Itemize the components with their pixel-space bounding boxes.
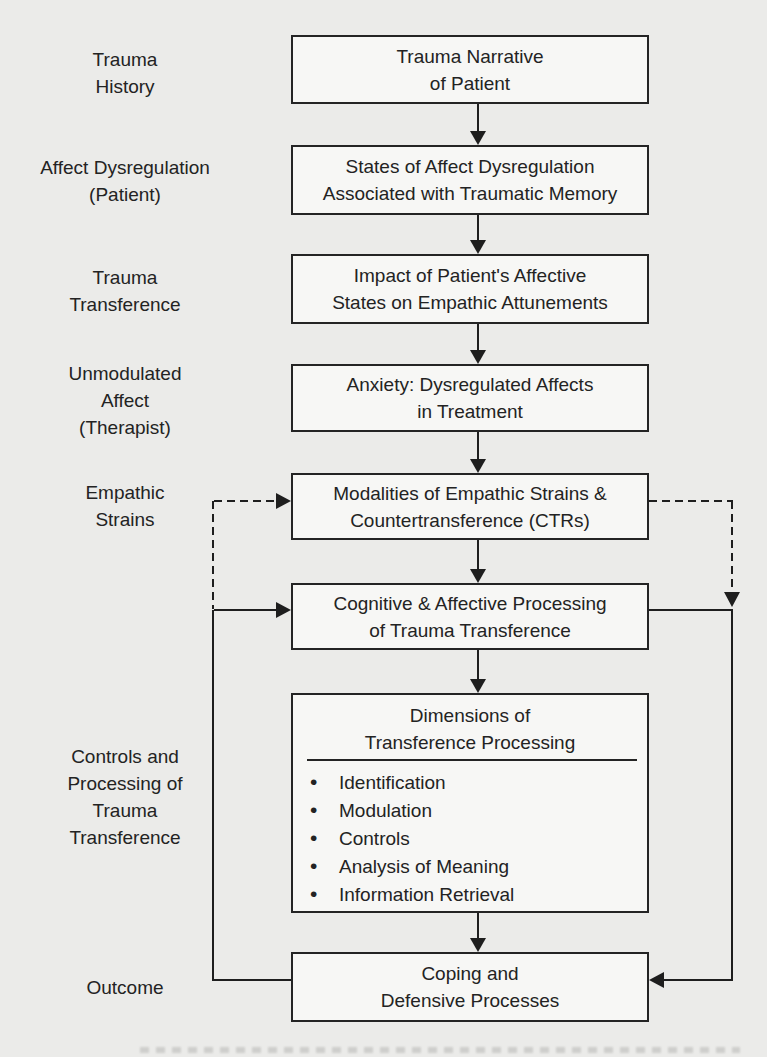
arrowhead-down-icon xyxy=(470,350,486,364)
dimensions-title: Dimensions of Transference Processing xyxy=(293,695,647,756)
arrowhead-down-icon xyxy=(470,569,486,583)
arrowhead-right-icon xyxy=(276,602,291,618)
dashed-line-from-modalities xyxy=(649,500,733,502)
dashed-rail-left xyxy=(212,501,214,609)
solid-line-into-cognitive xyxy=(214,609,276,611)
bullet-icon: • xyxy=(310,852,339,879)
box-impact-affective-states: Impact of Patient's Affective States on … xyxy=(291,254,649,324)
arrowhead-left-icon xyxy=(649,972,664,988)
box-coping-defensive-processes-text: Coping and Defensive Processes xyxy=(381,960,559,1014)
arrow-stem xyxy=(477,104,479,133)
list-item-text: Modulation xyxy=(339,797,432,824)
list-item-text: Information Retrieval xyxy=(339,881,514,908)
arrowhead-down-icon xyxy=(470,679,486,693)
side-label-affect-dysregulation: Affect Dysregulation (Patient) xyxy=(0,154,250,208)
list-item-text: Analysis of Meaning xyxy=(339,853,509,880)
dashed-rail-right xyxy=(731,501,733,592)
down-arrow-2 xyxy=(470,215,486,254)
bullet-icon: • xyxy=(310,880,339,907)
bullet-icon: • xyxy=(310,796,339,823)
down-arrow-3 xyxy=(470,324,486,364)
arrowhead-right-icon xyxy=(276,493,291,509)
arrow-stem xyxy=(477,215,479,242)
arrow-stem xyxy=(477,324,479,352)
box-cognitive-affective-processing-text: Cognitive & Affective Processing of Trau… xyxy=(333,590,606,644)
down-arrow-6 xyxy=(470,650,486,693)
arrow-stem xyxy=(477,913,479,940)
side-label-trauma-transference: Trauma Transference xyxy=(0,264,250,318)
list-item: •Controls xyxy=(310,824,647,852)
down-arrow-4 xyxy=(470,432,486,473)
box-coping-defensive-processes: Coping and Defensive Processes xyxy=(291,952,649,1022)
list-item: •Modulation xyxy=(310,796,647,824)
dashed-line-into-modalities xyxy=(214,500,276,502)
arrowhead-down-icon xyxy=(724,592,740,607)
list-item: •Information Retrieval xyxy=(310,880,647,908)
box-trauma-narrative-text: Trauma Narrative of Patient xyxy=(396,43,543,97)
side-label-unmodulated-affect: Unmodulated Affect (Therapist) xyxy=(0,360,250,441)
arrowhead-down-icon xyxy=(470,459,486,473)
arrowhead-down-icon xyxy=(470,131,486,145)
box-anxiety-dysregulated-affects-text: Anxiety: Dysregulated Affects in Treatme… xyxy=(347,371,594,425)
box-impact-affective-states-text: Impact of Patient's Affective States on … xyxy=(332,262,608,316)
arrowhead-down-icon xyxy=(470,938,486,952)
line-into-coping-right xyxy=(664,979,733,981)
list-item: •Identification xyxy=(310,768,647,796)
down-arrow-7 xyxy=(470,913,486,952)
box-cognitive-affective-processing: Cognitive & Affective Processing of Trau… xyxy=(291,583,649,650)
title-underline xyxy=(307,759,637,761)
trauma-transference-flow-diagram: Trauma History Affect Dysregulation (Pat… xyxy=(0,0,767,1057)
box-trauma-narrative: Trauma Narrative of Patient xyxy=(291,35,649,104)
list-item-text: Identification xyxy=(339,769,446,796)
list-item: •Analysis of Meaning xyxy=(310,852,647,880)
arrow-stem xyxy=(477,540,479,571)
solid-line-from-cognitive xyxy=(649,609,733,611)
arrowhead-down-icon xyxy=(470,240,486,254)
arrow-stem xyxy=(477,432,479,461)
down-arrow-5 xyxy=(470,540,486,583)
list-item-text: Controls xyxy=(339,825,410,852)
box-modalities-empathic-strains-text: Modalities of Empathic Strains & Counter… xyxy=(333,480,607,534)
down-arrow-1 xyxy=(470,104,486,145)
arrow-stem xyxy=(477,650,479,681)
solid-rail-left xyxy=(212,610,214,980)
bullet-icon: • xyxy=(310,824,339,851)
box-modalities-empathic-strains: Modalities of Empathic Strains & Counter… xyxy=(291,473,649,540)
box-anxiety-dysregulated-affects: Anxiety: Dysregulated Affects in Treatme… xyxy=(291,364,649,432)
dimensions-list: •Identification •Modulation •Controls •A… xyxy=(293,768,647,908)
bullet-icon: • xyxy=(310,768,339,795)
cropped-caption-remnant xyxy=(140,1047,740,1053)
box-dimensions-transference-processing: Dimensions of Transference Processing •I… xyxy=(291,693,649,913)
solid-rail-right xyxy=(731,610,733,980)
side-label-trauma-history: Trauma History xyxy=(0,46,250,100)
box-affect-dysregulation-states-text: States of Affect Dysregulation Associate… xyxy=(323,153,618,207)
line-from-coping-left xyxy=(212,979,291,981)
box-affect-dysregulation-states: States of Affect Dysregulation Associate… xyxy=(291,145,649,215)
